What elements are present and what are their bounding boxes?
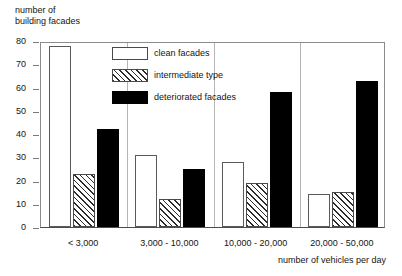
bar-deteriorated-facades	[270, 92, 292, 227]
intermediate-type-swatch	[112, 69, 148, 82]
x-axis-tick-label: 10,000 - 20,000	[213, 238, 299, 248]
y-axis: 01020304050607080	[0, 0, 40, 276]
bar-clean-facades	[135, 155, 157, 227]
chart-legend: clean facades intermediate type deterior…	[112, 44, 282, 110]
legend-label-deteriorated-facades: deteriorated facades	[154, 92, 236, 102]
legend-item-intermediate-type: intermediate type	[112, 66, 282, 84]
y-axis-tick-mark	[33, 112, 39, 113]
y-axis-tick-label: 60	[0, 84, 26, 93]
bar-deteriorated-facades	[183, 169, 205, 227]
legend-label-intermediate-type: intermediate type	[154, 70, 223, 80]
bar-clean-facades	[222, 162, 244, 227]
y-axis-tick-mark	[33, 89, 39, 90]
bar-clean-facades	[49, 46, 71, 227]
legend-label-clean-facades: clean facades	[154, 48, 210, 58]
y-axis-tick-label: 10	[0, 200, 26, 209]
y-axis-tick-label: 20	[0, 177, 26, 186]
deteriorated-facades-swatch	[112, 91, 148, 104]
bar-chart: number of building facades 0102030405060…	[0, 0, 402, 276]
clean-facades-swatch	[112, 47, 148, 60]
y-axis-tick-label: 50	[0, 107, 26, 116]
y-axis-tick-label: 70	[0, 60, 26, 69]
legend-item-deteriorated-facades: deteriorated facades	[112, 88, 282, 106]
bar-intermediate-type	[332, 192, 354, 227]
y-axis-tick-label: 40	[0, 130, 26, 139]
bar-deteriorated-facades	[356, 81, 378, 227]
bar-group	[300, 43, 394, 227]
legend-item-clean-facades: clean facades	[112, 44, 282, 62]
bar-intermediate-type	[159, 199, 181, 227]
y-axis-tick-mark	[33, 205, 39, 206]
bar-intermediate-type	[73, 174, 95, 227]
bar-clean-facades	[308, 194, 330, 227]
y-axis-tick-label: 30	[0, 153, 26, 162]
bar-intermediate-type	[246, 183, 268, 227]
y-axis-tick-label: 80	[0, 37, 26, 46]
y-axis-tick-mark	[33, 65, 39, 66]
x-axis-tick-label: < 3,000	[40, 238, 126, 248]
y-axis-tick-mark	[33, 135, 39, 136]
bar-deteriorated-facades	[97, 129, 119, 227]
x-axis-tick-label: 20,000 - 50,000	[299, 238, 385, 248]
y-axis-tick-mark	[33, 42, 39, 43]
y-axis-tick-mark	[33, 158, 39, 159]
y-axis-tick-mark	[33, 182, 39, 183]
y-axis-tick-label: 0	[0, 223, 26, 232]
y-axis-tick-mark	[33, 228, 39, 229]
x-axis-title: number of vehicles per day	[278, 255, 386, 265]
x-axis-tick-label: 3,000 - 10,000	[126, 238, 212, 248]
